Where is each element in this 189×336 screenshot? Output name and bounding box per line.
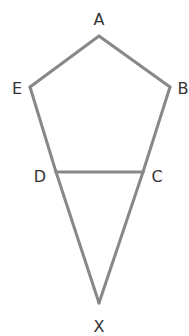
segment-CX [99, 172, 143, 303]
segment-AB [99, 36, 170, 87]
segment-AE [30, 36, 99, 87]
vertex-label-c: C [151, 169, 162, 185]
segment-DX [56, 172, 99, 303]
vertex-label-x: X [94, 319, 105, 335]
vertex-label-e: E [12, 81, 22, 97]
vertex-label-a: A [94, 12, 105, 28]
segment-ED [30, 87, 56, 172]
vertex-label-b: B [178, 81, 189, 97]
vertex-label-d: D [34, 169, 46, 185]
segment-BC [143, 87, 170, 172]
